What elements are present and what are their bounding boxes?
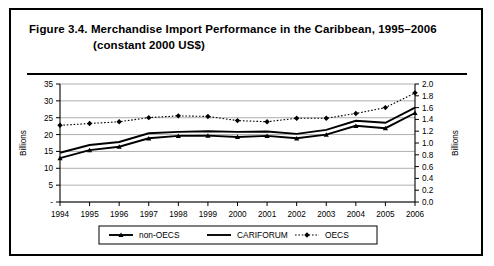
chart-legend: non-OECSCARIFORUMOECS [99, 226, 377, 244]
data-point-marker [205, 114, 210, 119]
figure-title-line-2: (constant 2000 US$) [29, 38, 459, 54]
left-axis-tick-label: 35 [44, 80, 54, 89]
data-point-marker [324, 116, 329, 121]
data-point-marker [116, 119, 121, 124]
legend-label-oecs: OECS [325, 230, 349, 240]
x-axis: 1994199519961997199819992000200120022003… [51, 202, 425, 219]
series-line-cariforum [60, 108, 415, 153]
data-point-marker [383, 105, 388, 110]
left-axis-tick-label: 5 [48, 181, 53, 190]
x-axis-tick-label: 2006 [406, 210, 425, 219]
figure-title: Figure 3.4. Merchandise Import Performan… [29, 22, 459, 53]
right-axis-tick-label: 0.4 [422, 174, 434, 183]
right-axis-tick-label: 0.2 [422, 186, 434, 195]
data-point-marker [57, 123, 62, 128]
right-axis-tick-label: 0.0 [422, 198, 434, 207]
x-axis-tick-label: 1994 [51, 210, 70, 219]
right-axis-tick-label: 1.4 [422, 115, 434, 124]
right-axis-tick-label: 0.8 [422, 151, 434, 160]
x-axis-tick-label: 2000 [228, 210, 247, 219]
x-axis-tick-label: 1997 [140, 210, 159, 219]
x-axis-tick-label: 2002 [288, 210, 307, 219]
x-axis-tick-label: 2004 [347, 210, 366, 219]
x-axis-tick-label: 1998 [169, 210, 188, 219]
right-axis-tick-label: 1.6 [422, 104, 434, 113]
figure-frame: Figure 3.4. Merchandise Import Performan… [9, 8, 483, 256]
right-axis: 0.00.20.40.60.81.01.21.41.61.82.0Billion… [415, 80, 460, 207]
right-axis-tick-label: 2.0 [422, 80, 434, 89]
legend-label-cariforum: CARIFORUM [237, 230, 288, 240]
data-point-marker [264, 119, 269, 124]
data-point-marker [235, 118, 240, 123]
line-chart: -5101520253035Billions 0.00.20.40.60.81.… [11, 76, 481, 254]
right-axis-tick-label: 1.8 [422, 92, 434, 101]
title-divider [27, 73, 467, 75]
x-axis-tick-label: 1999 [199, 210, 218, 219]
legend-label-non-oecs: non-OECS [139, 230, 180, 240]
left-axis-tick-label: - [50, 198, 53, 207]
right-axis-tick-label: 1.0 [422, 139, 434, 148]
x-axis-tick-label: 2005 [376, 210, 395, 219]
data-point-marker [353, 111, 358, 116]
left-axis: -5101520253035Billions [19, 80, 60, 207]
data-point-marker [412, 111, 417, 116]
x-axis-tick-label: 2003 [317, 210, 336, 219]
data-point-marker [146, 115, 151, 120]
data-point-marker [294, 116, 299, 121]
left-axis-tick-label: 25 [44, 114, 54, 123]
left-axis-tick-label: 30 [44, 97, 54, 106]
right-axis-tick-label: 1.2 [422, 127, 434, 136]
data-point-marker [412, 90, 417, 95]
data-point-marker [87, 121, 92, 126]
left-axis-tick-label: 20 [44, 131, 54, 140]
left-axis-tick-label: 15 [44, 147, 54, 156]
left-axis-tick-label: 10 [44, 164, 54, 173]
x-axis-tick-label: 1996 [110, 210, 129, 219]
left-axis-title: Billions [19, 130, 28, 156]
chart-area: -5101520253035Billions 0.00.20.40.60.81.… [11, 76, 481, 254]
right-axis-title: Billions [451, 130, 460, 156]
figure-title-line-1: Figure 3.4. Merchandise Import Performan… [29, 22, 459, 38]
x-axis-tick-label: 1995 [80, 210, 99, 219]
right-axis-tick-label: 0.6 [422, 163, 434, 172]
x-axis-tick-label: 2001 [258, 210, 277, 219]
